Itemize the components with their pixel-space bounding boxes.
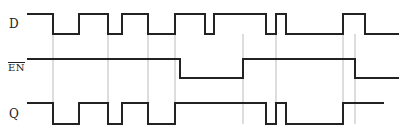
signal-label-d: D bbox=[9, 18, 19, 30]
signal-q-waveform bbox=[27, 103, 384, 124]
signal-label-q: Q bbox=[9, 108, 19, 120]
signal-label-en-bar: EN bbox=[8, 62, 25, 73]
timing-diagram bbox=[0, 0, 408, 138]
signal-d-waveform bbox=[27, 14, 399, 34]
